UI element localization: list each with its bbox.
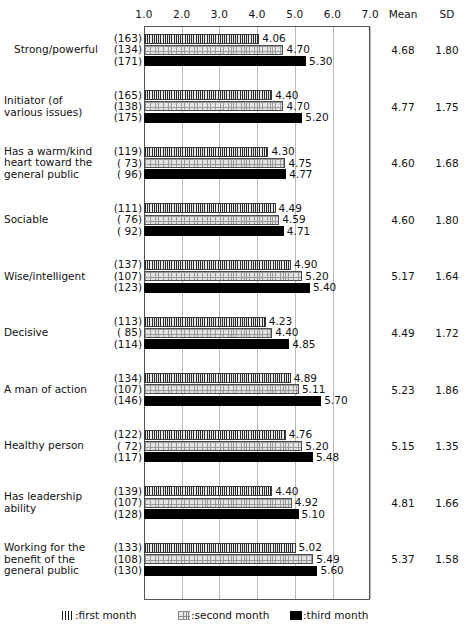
chart-item-group: A man of action(134)(107)(146)4.895.115.… bbox=[0, 373, 471, 407]
sample-size-value: ( 96) bbox=[100, 169, 142, 180]
grouped-bar-chart: 1.02.03.04.05.06.07.0 Mean SD Strong/pow… bbox=[0, 0, 471, 631]
bar-value-label: 4.77 bbox=[286, 169, 312, 180]
bar-m3 bbox=[144, 396, 321, 406]
chart-item-group: Has a warm/kind heart toward the general… bbox=[0, 146, 471, 180]
sd-value: 1.80 bbox=[417, 214, 471, 226]
chart-item-group: Decisive(113)( 85)(114)4.234.404.854.491… bbox=[0, 316, 471, 350]
sd-value: 1.64 bbox=[417, 270, 471, 282]
sample-size-value: (130) bbox=[100, 565, 142, 576]
x-tick-1.0: 1.0 bbox=[124, 8, 164, 20]
sample-size-column: (113)( 85)(114) bbox=[100, 316, 142, 350]
bar-value-label: 5.10 bbox=[299, 509, 325, 520]
bar-m1 bbox=[144, 90, 272, 100]
x-tick-2.0: 2.0 bbox=[162, 8, 202, 20]
bar-m1 bbox=[144, 317, 266, 327]
sample-size-value: (122) bbox=[100, 429, 142, 440]
x-tick-3.0: 3.0 bbox=[199, 8, 239, 20]
bar-m2 bbox=[144, 101, 283, 111]
legend-entry-m2: :second month bbox=[178, 608, 269, 622]
category-label: Has a warm/kind heart toward the general… bbox=[4, 146, 108, 181]
bar-value-label: 5.40 bbox=[310, 282, 336, 293]
bar-m2 bbox=[144, 554, 313, 564]
bar-m3 bbox=[144, 339, 289, 349]
legend-label: :first month bbox=[75, 609, 136, 621]
sd-value: 1.86 bbox=[417, 384, 471, 396]
chart-item-group: Healthy person(122)( 72)(117)4.765.205.4… bbox=[0, 429, 471, 463]
bar-value-label: 4.92 bbox=[292, 497, 318, 508]
legend-entry-m1: :first month bbox=[62, 608, 136, 622]
bar-value-label: 5.48 bbox=[313, 452, 339, 463]
sample-size-value: (117) bbox=[100, 452, 142, 463]
bar-value-label: 4.76 bbox=[286, 429, 312, 440]
category-label: Has leadership ability bbox=[4, 491, 108, 514]
bar-m3 bbox=[144, 56, 306, 66]
legend-swatch-m2 bbox=[178, 611, 190, 620]
bar-value-label: 5.60 bbox=[317, 565, 343, 576]
bar-m2 bbox=[144, 441, 302, 451]
bar-m3 bbox=[144, 113, 302, 123]
sd-value: 1.58 bbox=[417, 553, 471, 565]
sd-value: 1.72 bbox=[417, 327, 471, 339]
bar-value-label: 4.85 bbox=[289, 339, 315, 350]
bar-m1 bbox=[144, 486, 272, 496]
bar-m1 bbox=[144, 260, 291, 270]
sample-size-value: (123) bbox=[100, 282, 142, 293]
bar-m2 bbox=[144, 215, 279, 225]
bar-m3 bbox=[144, 169, 286, 179]
x-tick-6.0: 6.0 bbox=[313, 8, 353, 20]
sd-value: 1.80 bbox=[417, 44, 471, 56]
chart-item-group: Wise/intelligent(137)(107)(123)4.905.205… bbox=[0, 259, 471, 293]
legend-entry-m3: :third month bbox=[290, 608, 368, 622]
sample-size-value: (171) bbox=[100, 56, 142, 67]
sample-size-column: (165)(138)(175) bbox=[100, 90, 142, 124]
sample-size-value: (128) bbox=[100, 509, 142, 520]
sample-size-column: (139)(107)(128) bbox=[100, 486, 142, 520]
legend-label: :second month bbox=[191, 609, 269, 621]
bar-value-label: 5.20 bbox=[302, 112, 328, 123]
category-label: Strong/powerful bbox=[4, 44, 108, 56]
sample-size-column: (134)(107)(146) bbox=[100, 373, 142, 407]
bar-m2 bbox=[144, 158, 285, 168]
bar-m2 bbox=[144, 45, 283, 55]
sample-size-value: (175) bbox=[100, 112, 142, 123]
category-label: Wise/intelligent bbox=[4, 271, 108, 283]
sd-value: 1.68 bbox=[417, 157, 471, 169]
category-label: A man of action bbox=[4, 384, 108, 396]
chart-item-group: Has leadership ability(139)(107)(128)4.4… bbox=[0, 486, 471, 520]
bar-m3 bbox=[144, 452, 313, 462]
sample-size-value: (146) bbox=[100, 395, 142, 406]
sample-size-value: (119) bbox=[100, 146, 142, 157]
bar-value-label: 4.06 bbox=[259, 33, 285, 44]
sample-size-value: ( 92) bbox=[100, 226, 142, 237]
bar-m2 bbox=[144, 384, 299, 394]
bar-value-label: 4.30 bbox=[268, 146, 294, 157]
bar-m1 bbox=[144, 203, 276, 213]
sample-size-value: ( 76) bbox=[100, 214, 142, 225]
bar-m3 bbox=[144, 226, 284, 236]
x-tick-5.0: 5.0 bbox=[275, 8, 315, 20]
sd-column-header: SD bbox=[417, 8, 471, 20]
sample-size-column: (137)(107)(123) bbox=[100, 259, 142, 293]
sd-value: 1.35 bbox=[417, 440, 471, 452]
legend-swatch-m1 bbox=[62, 611, 74, 620]
bar-m1 bbox=[144, 543, 296, 553]
sd-value: 1.66 bbox=[417, 497, 471, 509]
bar-m2 bbox=[144, 498, 292, 508]
sample-size-value: (114) bbox=[100, 339, 142, 350]
bar-value-label: 4.59 bbox=[279, 214, 305, 225]
bar-m3 bbox=[144, 509, 299, 519]
chart-item-group: Working for the benefit of the general p… bbox=[0, 542, 471, 576]
bar-m1 bbox=[144, 34, 259, 44]
legend-label: :third month bbox=[303, 609, 368, 621]
bar-m2 bbox=[144, 328, 272, 338]
category-label: Working for the benefit of the general p… bbox=[4, 542, 108, 577]
category-label: Decisive bbox=[4, 327, 108, 339]
bar-value-label: 4.71 bbox=[284, 226, 310, 237]
bar-m3 bbox=[144, 566, 317, 576]
sd-value: 1.75 bbox=[417, 101, 471, 113]
bar-m1 bbox=[144, 147, 268, 157]
sample-size-column: (111)( 76)( 92) bbox=[100, 203, 142, 237]
bar-value-label: 5.70 bbox=[321, 395, 347, 406]
category-label: Healthy person bbox=[4, 440, 108, 452]
bar-m3 bbox=[144, 283, 310, 293]
